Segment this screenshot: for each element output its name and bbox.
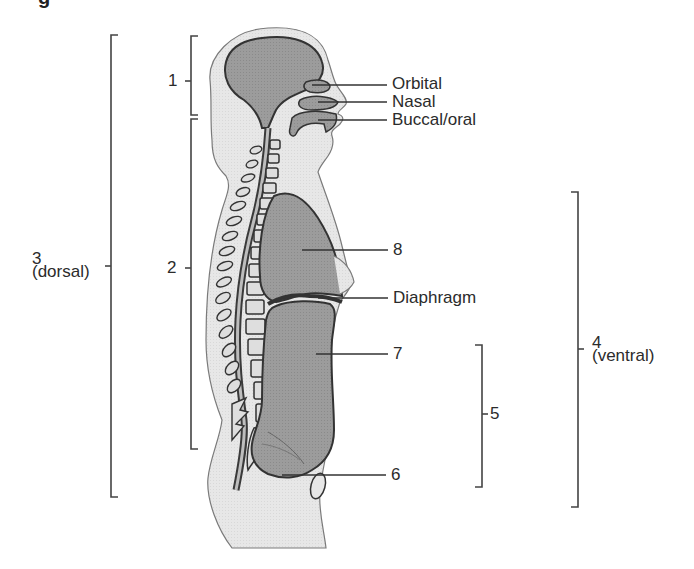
label-1: 1 bbox=[168, 73, 177, 89]
label-2: 2 bbox=[167, 260, 176, 276]
nasal-cavity bbox=[299, 96, 338, 110]
label-5: 5 bbox=[490, 406, 499, 422]
label-7: 7 bbox=[393, 346, 402, 362]
body-cavities-diagram: g bbox=[0, 0, 694, 569]
label-8: 8 bbox=[393, 242, 402, 258]
label-ventral: (ventral) bbox=[592, 348, 654, 364]
label-nasal: Nasal bbox=[392, 94, 435, 110]
label-orbital: Orbital bbox=[392, 76, 442, 92]
label-4-ventral: 4 (ventral) bbox=[592, 335, 654, 364]
label-3-dorsal: 3 (dorsal) bbox=[32, 251, 90, 280]
body-figure bbox=[0, 0, 694, 569]
label-6: 6 bbox=[391, 467, 400, 483]
orbital-cavity bbox=[304, 80, 330, 93]
label-diaphragm: Diaphragm bbox=[393, 290, 476, 306]
label-dorsal: (dorsal) bbox=[32, 264, 90, 280]
label-buccal-oral: Buccal/oral bbox=[392, 112, 476, 128]
